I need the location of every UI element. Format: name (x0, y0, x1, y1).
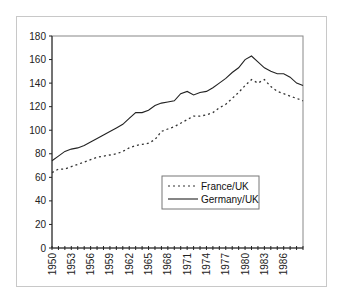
y-tick-label: 20 (35, 219, 47, 230)
y-tick-label: 80 (35, 148, 47, 159)
y-axis: 020406080100120140160180 (29, 31, 303, 254)
y-tick-label: 160 (29, 54, 46, 65)
x-tick-label: 1974 (201, 253, 212, 276)
y-tick-label: 140 (29, 78, 46, 89)
y-tick-label: 100 (29, 125, 46, 136)
x-tick-label: 1950 (47, 253, 58, 276)
legend-label: France/UK (201, 181, 249, 192)
x-tick-label: 1986 (278, 253, 289, 276)
x-tick-label: 1980 (240, 253, 251, 276)
y-tick-label: 120 (29, 101, 46, 112)
line-chart: 020406080100120140160180 195019531956195… (0, 0, 341, 299)
x-tick-label: 1977 (220, 253, 231, 276)
x-tick-label: 1971 (182, 253, 193, 276)
x-tick-label: 1953 (66, 253, 77, 276)
legend: France/UKGermany/UK (162, 176, 259, 209)
x-tick-label: 1956 (85, 253, 96, 276)
x-tick-label: 1968 (162, 253, 173, 276)
germany-ukline (52, 56, 303, 161)
y-tick-label: 60 (35, 172, 47, 183)
legend-label: Germany/UK (201, 194, 259, 205)
x-tick-label: 1965 (143, 253, 154, 276)
y-tick-label: 0 (40, 243, 46, 254)
x-tick-label: 1959 (104, 253, 115, 276)
y-tick-label: 180 (29, 31, 46, 42)
plot-lines (52, 56, 303, 173)
x-tick-label: 1962 (124, 253, 135, 276)
x-tick-label: 1983 (259, 253, 270, 276)
y-tick-label: 40 (35, 195, 47, 206)
x-axis: 1950195319561959196219651968197119741977… (47, 246, 304, 275)
france-ukline (52, 80, 303, 173)
